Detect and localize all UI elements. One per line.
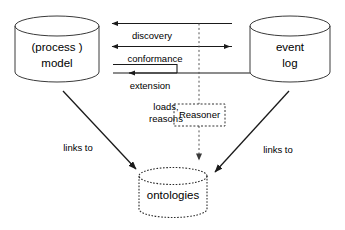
edge-log-links-to[interactable]: links to: [215, 91, 293, 172]
ontologies-label: ontologies: [147, 189, 200, 201]
ontologies-cylinder-top: [139, 168, 207, 185]
event-log-label-line2: log: [282, 57, 297, 69]
model-links-to-arrow: [63, 91, 136, 169]
extension-line-bend: [113, 65, 177, 74]
edge-extension[interactable]: extension: [113, 65, 250, 91]
process-model-cylinder-top: [15, 16, 99, 36]
event-log-cylinder-body: [250, 26, 330, 82]
log-links-to-label: links to: [263, 144, 293, 155]
node-event-log[interactable]: event log: [250, 16, 330, 82]
model-links-to-label: links to: [63, 142, 93, 153]
process-model-label-line2: model: [41, 57, 72, 69]
conformance-label: conformance: [128, 53, 183, 64]
event-log-label-line1: event: [276, 41, 305, 53]
loads-reasons-label-line1: loads,: [153, 101, 178, 112]
extension-label: extension: [130, 80, 171, 91]
process-model-label-line1: (process ): [31, 41, 82, 53]
discovery-label: discovery: [132, 30, 172, 41]
node-ontologies[interactable]: ontologies: [139, 168, 207, 218]
edge-model-links-to[interactable]: links to: [63, 91, 136, 169]
node-process-model[interactable]: (process ) model: [15, 16, 99, 82]
diagram-canvas: (process ) model event log ontologies di…: [0, 0, 345, 230]
edge-conformance[interactable]: conformance: [112, 47, 232, 64]
diagram-svg: (process ) model event log ontologies di…: [0, 0, 345, 230]
process-model-cylinder-body: [15, 26, 99, 82]
reasoner-label: Reasoner: [179, 109, 220, 120]
log-links-to-arrow: [215, 91, 289, 172]
edge-discovery[interactable]: discovery: [112, 24, 232, 41]
edge-loads-reasons[interactable]: loads, reasons: [149, 24, 199, 161]
event-log-cylinder-top: [250, 16, 330, 36]
